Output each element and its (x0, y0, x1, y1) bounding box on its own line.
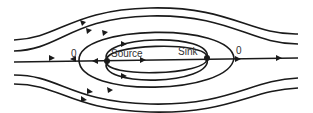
arrow-icon (107, 87, 113, 93)
arrow-icon (235, 56, 241, 62)
arrow-icon (80, 20, 86, 26)
arrow-icon (81, 96, 87, 102)
sink-label: Sink (178, 46, 198, 57)
stagnation-label-left: 0 (71, 48, 77, 59)
rankine-oval-diagram: 0 Source Sink 0 (0, 0, 313, 113)
arrow-icon (102, 30, 108, 36)
sink-point (204, 55, 210, 61)
stagnation-label-right: 0 (236, 45, 242, 56)
source-point (104, 58, 110, 64)
arrow-icon (92, 58, 98, 64)
streamline-bottom-2 (14, 84, 298, 112)
arrow-icon (86, 28, 92, 34)
arrow-icon (87, 88, 93, 94)
source-label: Source (111, 48, 143, 59)
arrow-icon (121, 41, 127, 47)
streamline-axis (14, 58, 298, 62)
arrow-icon (49, 55, 55, 61)
arrow-icon (276, 55, 282, 61)
